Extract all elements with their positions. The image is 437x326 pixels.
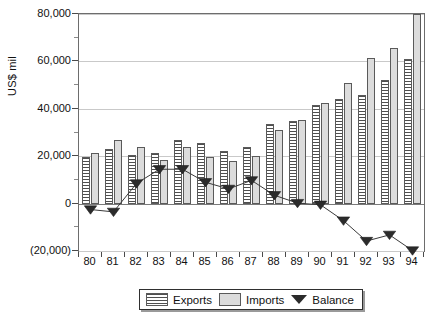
x-tick-mark (331, 252, 332, 257)
y-tick-label: (20,000) (9, 244, 71, 256)
y-tick-label: 80,000 (9, 7, 71, 19)
balance-triangle-marker (245, 177, 257, 185)
x-tick-label: 83 (152, 255, 164, 267)
plot-area (78, 13, 425, 252)
gridline (79, 251, 424, 252)
x-tick-mark (308, 252, 309, 257)
x-tick-mark (193, 252, 194, 257)
y-tick-label: 20,000 (9, 149, 71, 161)
bar-chart-figure: US$ mil 80,00060,00040,00020,0000(20,000… (0, 0, 437, 326)
legend-item-imports[interactable]: Imports (219, 293, 284, 306)
legend-item-exports[interactable]: Exports (146, 293, 212, 306)
legend-label-imports: Imports (246, 294, 284, 306)
x-tick-label: 89 (290, 255, 302, 267)
legend-label-balance: Balance (312, 294, 354, 306)
x-tick-mark (170, 252, 171, 257)
x-tick-mark (400, 252, 401, 257)
x-tick-label: 86 (221, 255, 233, 267)
x-tick-mark (354, 252, 355, 257)
x-tick-label: 94 (405, 255, 417, 267)
y-tick-label: 40,000 (9, 102, 71, 114)
x-tick-mark (124, 252, 125, 257)
balance-triangle-marker (360, 237, 372, 245)
x-tick-label: 85 (198, 255, 210, 267)
y-tick-label: 60,000 (9, 54, 71, 66)
x-tick-mark (377, 252, 378, 257)
x-tick-mark (78, 252, 79, 257)
x-tick-label: 91 (336, 255, 348, 267)
x-tick-mark (147, 252, 148, 257)
x-tick-label: 80 (83, 255, 95, 267)
legend-item-balance[interactable]: Balance (291, 293, 354, 306)
x-tick-label: 81 (106, 255, 118, 267)
x-tick-label: 93 (382, 255, 394, 267)
x-tick-mark (239, 252, 240, 257)
x-tick-label: 92 (359, 255, 371, 267)
legend-label-exports: Exports (173, 294, 212, 306)
x-tick-mark (216, 252, 217, 257)
exports-hatch-swatch (146, 293, 168, 306)
x-tick-mark (262, 252, 263, 257)
x-tick-label: 90 (313, 255, 325, 267)
y-tick-label: 0 (9, 197, 71, 209)
balance-triangle-marker (199, 179, 211, 187)
x-tick-label: 82 (129, 255, 141, 267)
balance-triangle-marker (130, 180, 142, 188)
imports-gray-swatch (219, 293, 241, 306)
x-tick-mark (423, 252, 424, 257)
balance-line-series (79, 14, 424, 251)
balance-triangle-marker (222, 185, 234, 193)
chart-legend: Exports Imports Balance (139, 289, 363, 310)
x-tick-label: 87 (244, 255, 256, 267)
x-tick-label: 84 (175, 255, 187, 267)
x-tick-mark (285, 252, 286, 257)
x-tick-label: 88 (267, 255, 279, 267)
x-tick-mark (101, 252, 102, 257)
balance-triangle-marker (107, 208, 119, 216)
balance-triangle-marker (291, 293, 307, 306)
balance-triangle-marker (268, 192, 280, 200)
